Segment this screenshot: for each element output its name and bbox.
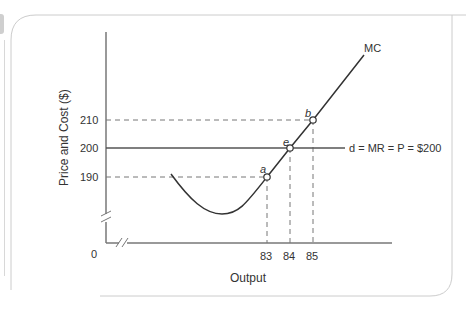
x-tick-83: 83: [260, 250, 272, 262]
point-a-label: a: [260, 163, 266, 175]
chart: a e b MC d = MR = P = $200 210 200 190 0…: [0, 0, 466, 310]
point-b-label: b: [305, 107, 311, 119]
x-tick-0: 0: [91, 248, 97, 260]
y-axis-title: Price and Cost ($): [57, 89, 71, 186]
y-tick-190: 190: [80, 171, 98, 183]
demand-label: d = MR = P = $200: [349, 142, 441, 154]
card-border-bottom: [100, 15, 452, 296]
point-e-label: e: [283, 136, 289, 148]
x-tick-84: 84: [283, 250, 295, 262]
y-tick-210: 210: [80, 114, 98, 126]
y-tick-200: 200: [80, 142, 98, 154]
mc-label: MC: [364, 42, 381, 54]
x-tick-85: 85: [306, 250, 318, 262]
x-axis-title: Output: [230, 271, 267, 285]
